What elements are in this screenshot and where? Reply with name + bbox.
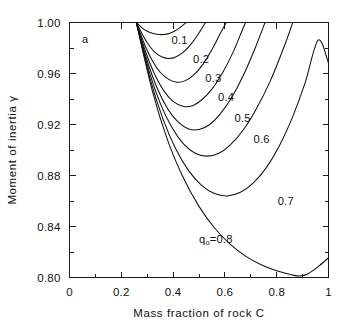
x-tick-label: 0.8 <box>268 286 285 298</box>
curve-label-q-0.5: 0.5 <box>234 112 250 124</box>
panel-label: a <box>82 33 89 45</box>
x-tick-label: 0.2 <box>113 286 130 298</box>
y-tick-label: 1.00 <box>37 17 60 29</box>
x-tick-label: 0.4 <box>165 286 182 298</box>
curve-label-q-0.3: 0.3 <box>205 72 221 84</box>
x-tick-label: 1 <box>325 286 332 298</box>
y-tick-label: 0.80 <box>37 272 60 284</box>
y-tick-label: 0.96 <box>37 68 60 80</box>
y-axis-title: Moment of inertia γ <box>6 95 18 204</box>
chart-canvas: 0.800.840.880.920.961.00 00.20.40.60.81 … <box>0 0 348 328</box>
x-tick-label: 0 <box>66 286 73 298</box>
x-axis-title: Mass fraction of rock C <box>133 307 264 319</box>
y-tick-label: 0.92 <box>37 119 60 131</box>
y-tick-label: 0.84 <box>37 221 61 233</box>
y-tick-label: 0.88 <box>37 170 60 182</box>
curve-label-q-0.1: 0.1 <box>171 34 187 46</box>
figure-root: 0.800.840.880.920.961.00 00.20.40.60.81 … <box>0 0 348 328</box>
curve-label-q-0.6: 0.6 <box>254 133 270 145</box>
curve-label-q-0.2: 0.2 <box>193 53 209 65</box>
curve-label-q-0.4: 0.4 <box>218 91 234 103</box>
x-tick-label: 0.6 <box>217 286 234 298</box>
curve-label-q-0.7: 0.7 <box>278 195 294 207</box>
